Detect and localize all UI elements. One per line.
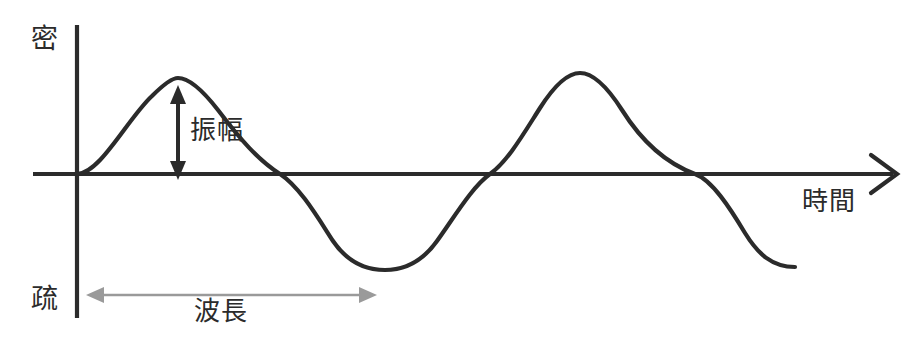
amplitude-arrowhead-up-icon [170,85,186,104]
y-axis-bottom-label: 疏 [31,286,59,313]
wavelength-label: 波長 [194,298,247,324]
wave-diagram-figure: 密 疏 時間 振幅 波長 [0,0,921,354]
wavelength-arrowhead-right-icon [359,287,377,303]
wavelength-arrowhead-left-icon [86,287,104,303]
amplitude-arrowhead-down-icon [170,161,186,180]
amplitude-arrow [170,85,186,180]
y-axis-top-label: 密 [31,26,59,53]
wave-diagram-canvas [0,0,921,354]
x-axis-label: 時間 [802,188,855,214]
amplitude-label: 振幅 [190,117,243,143]
